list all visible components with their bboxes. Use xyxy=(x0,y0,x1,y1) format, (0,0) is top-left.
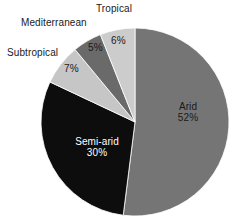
slice-percent-arid: 52% xyxy=(166,112,210,123)
slice-label-arid: Arid 52% xyxy=(166,101,210,123)
slice-percent-subtropical: 7% xyxy=(64,63,79,74)
slice-label-tropical: Tropical xyxy=(96,3,132,14)
slice-percent-mediterranean: 5% xyxy=(88,42,103,53)
slice-percent-tropical: 6% xyxy=(111,35,126,46)
slice-label-semi-arid: Semi-arid 30% xyxy=(60,136,134,158)
slice-label-arid-name: Arid xyxy=(166,101,210,112)
slice-label-mediterranean: Mediterranean xyxy=(21,17,87,28)
slice-label-subtropical: Subtropical xyxy=(7,47,58,58)
pie-chart-figure: Tropical Mediterranean Subtropical 6% 5%… xyxy=(0,0,238,224)
slice-label-semi-arid-name: Semi-arid xyxy=(60,136,134,147)
slice-percent-semi-arid: 30% xyxy=(60,147,134,158)
